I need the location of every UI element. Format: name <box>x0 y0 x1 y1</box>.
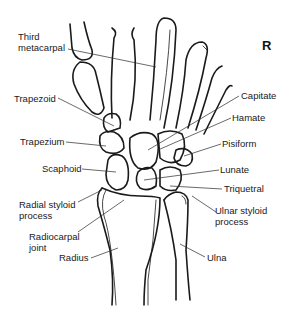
label-trapezium: Trapezium <box>20 137 65 148</box>
label-lunate: Lunate <box>220 165 249 176</box>
metacarpal-bones <box>70 18 232 134</box>
label-radiocarpal-joint: Radiocarpal joint <box>29 232 80 253</box>
label-scaphoid: Scaphoid <box>42 164 82 175</box>
label-ulna: Ulna <box>207 253 227 264</box>
label-ulnar-styloid-process: Ulnar styloid process <box>215 206 267 227</box>
label-pisiform: Pisiform <box>222 139 256 150</box>
label-radius: Radius <box>59 253 89 264</box>
label-capitate: Capitate <box>241 91 276 102</box>
ulna-bone <box>164 192 190 300</box>
radius-bone <box>98 188 161 305</box>
carpal-bones <box>100 114 193 191</box>
side-marker-right: R <box>262 38 271 53</box>
label-third-metacarpal: Third metacarpal <box>18 32 65 53</box>
label-hamate: Hamate <box>232 113 265 124</box>
wrist-bone-diagram: R Third metacarpal Trapezoid Trapezium S… <box>0 0 285 327</box>
label-triquetral: Triquetral <box>224 184 264 195</box>
label-radial-styloid-process: Radial styloid process <box>19 200 76 221</box>
label-trapezoid: Trapezoid <box>14 94 56 105</box>
